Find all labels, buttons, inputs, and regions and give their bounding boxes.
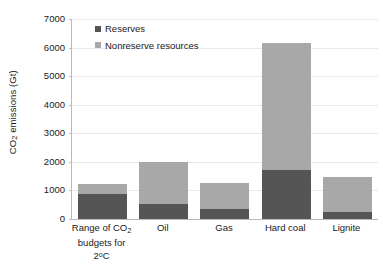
x-label-degree-symbol: o xyxy=(99,251,103,258)
y-axis-title-pre: CO xyxy=(7,140,18,154)
x-axis-tick-label: Lignite xyxy=(316,222,377,234)
bar-segment-nonreserve-resources[interactable] xyxy=(78,184,127,194)
y-axis-tick-label: 2000 xyxy=(44,157,65,167)
legend-swatch-icon xyxy=(95,26,101,32)
x-label-line1: Gas xyxy=(215,222,232,233)
x-label-line1: Range of CO2 xyxy=(72,222,132,233)
y-axis-tick-label: 1000 xyxy=(44,186,65,196)
co2-emissions-stacked-bar-chart: CO2 emissions (Gt) 010002000300040005000… xyxy=(0,0,383,264)
legend-item[interactable]: Nonreserve resources xyxy=(95,41,198,51)
x-label-subscript: 2 xyxy=(127,226,131,235)
y-axis-tick-label: 4000 xyxy=(44,100,65,110)
x-axis-tick-label: Gas xyxy=(193,222,254,234)
bar-segment-nonreserve-resources[interactable] xyxy=(139,162,188,204)
y-axis-title-subscript: 2 xyxy=(10,136,19,140)
y-axis-tick-mark xyxy=(69,219,72,220)
x-axis-tick-label: Range of CO2budgets for 2oC xyxy=(71,222,132,262)
y-axis-tick-label: 6000 xyxy=(44,43,65,53)
chart-legend: ReservesNonreserve resources xyxy=(95,24,198,50)
legend-label: Nonreserve resources xyxy=(105,41,198,51)
x-label-line1: Hard coal xyxy=(265,222,306,233)
bar-group[interactable] xyxy=(262,19,311,219)
y-axis-tick-label: 5000 xyxy=(44,71,65,81)
y-axis-tick-labels: 01000200030004000500060007000 xyxy=(24,0,69,225)
bar-group[interactable] xyxy=(200,19,249,219)
bar-group[interactable] xyxy=(323,19,372,219)
legend-item[interactable]: Reserves xyxy=(95,24,198,34)
legend-label: Reserves xyxy=(105,24,145,34)
bar-segment-reserves[interactable] xyxy=(262,170,311,219)
legend-swatch-icon xyxy=(95,42,101,48)
bar-segment-reserves[interactable] xyxy=(78,194,127,219)
x-label-line1: Lignite xyxy=(332,222,360,233)
x-label-line2: budgets for 2oC xyxy=(78,237,126,262)
y-axis-title: CO2 emissions (Gt) xyxy=(2,0,24,225)
y-axis-tick-label: 7000 xyxy=(44,14,65,24)
bar-segment-nonreserve-resources[interactable] xyxy=(323,177,372,212)
x-axis-tick-label: Hard coal xyxy=(255,222,316,234)
y-axis-title-text: CO2 emissions (Gt) xyxy=(7,70,20,154)
bar-segment-reserves[interactable] xyxy=(200,209,249,219)
y-axis-tick-label: 3000 xyxy=(44,129,65,139)
bar-segment-reserves[interactable] xyxy=(139,204,188,219)
bar-segment-nonreserve-resources[interactable] xyxy=(200,183,249,209)
x-label-line1: Oil xyxy=(157,222,169,233)
x-axis-tick-label: Oil xyxy=(132,222,193,234)
bar-segment-nonreserve-resources[interactable] xyxy=(262,43,311,170)
x-axis-tick-labels: Range of CO2budgets for 2oCOilGasHard co… xyxy=(71,222,377,264)
bar-segment-reserves[interactable] xyxy=(323,212,372,219)
y-axis-tick-label: 0 xyxy=(60,214,65,224)
y-axis-title-post: emissions (Gt) xyxy=(7,70,18,135)
